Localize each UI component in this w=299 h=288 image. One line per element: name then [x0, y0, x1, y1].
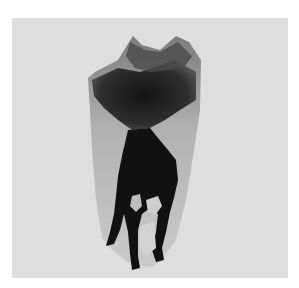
tooth-radiograph [0, 0, 299, 288]
